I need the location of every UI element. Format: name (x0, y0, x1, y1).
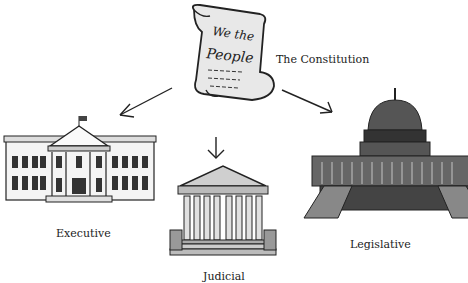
capitol-building-icon (298, 88, 468, 228)
branch-label-legislative: Legislative (350, 238, 411, 251)
branch-label-judicial: Judicial (203, 270, 245, 283)
branch-label-executive: Executive (56, 227, 111, 240)
white-house-icon (2, 116, 158, 206)
supreme-court-icon (168, 164, 278, 259)
